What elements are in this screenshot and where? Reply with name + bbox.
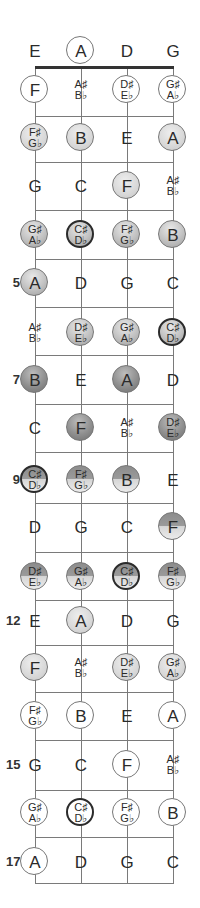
note-name: D (121, 42, 133, 61)
note-fret-1-string-d: D♯E♭ (110, 73, 144, 107)
note-name: G (120, 853, 133, 872)
note-fret-12-string-d: D (110, 604, 144, 638)
note-name: F (122, 756, 132, 775)
note-label: F♯G♭ (120, 224, 134, 246)
flat-name: B♭ (167, 765, 180, 776)
note-label: F (76, 420, 86, 437)
note-name: A (121, 371, 132, 390)
fret-line-16 (35, 837, 174, 838)
note-label: F♯G♭ (28, 127, 42, 149)
flat-name: A♭ (28, 813, 42, 824)
fret-line-9 (35, 503, 174, 504)
fretboard-diagram: 579121517EADGFA♯B♭D♯E♭G♯A♭F♯G♭BEAGCFA♯B♭… (0, 0, 200, 908)
note-name: E (29, 612, 40, 631)
flat-name: D♭ (120, 577, 133, 588)
flat-name: G♭ (166, 577, 180, 588)
note-label: E (167, 472, 178, 489)
note-fret-13-string-e: F (18, 651, 52, 685)
note-fret-11-string-a: G♯A♭ (64, 560, 98, 594)
note-label: G♯A♭ (166, 79, 180, 101)
note-fret-14-string-e: F♯G♭ (18, 699, 52, 733)
note-fret-15-string-a: C (64, 748, 98, 782)
note-label: B (167, 227, 178, 244)
note-fret-6-string-d: G♯A♭ (110, 316, 144, 350)
note-name: F (30, 659, 40, 678)
note-name: F (168, 518, 178, 537)
note-fret-3-string-e: G (18, 169, 52, 203)
note-fret-12-string-e: E (18, 604, 52, 638)
note-name: F (122, 177, 132, 196)
note-label: A (167, 130, 178, 147)
note-label: A♯B♭ (29, 322, 42, 344)
note-label: D (75, 275, 87, 292)
note-fret-12-string-g: G (156, 604, 190, 638)
note-label: C (75, 178, 87, 195)
note-label: C (121, 519, 133, 536)
flat-name: A♭ (166, 668, 180, 679)
note-fret-2-string-d: E (110, 121, 144, 155)
note-label: D♯E♭ (74, 322, 87, 344)
note-fret-17-string-a: D (64, 845, 98, 879)
note-fret-0-string-e: E (18, 34, 52, 68)
flat-name: A♭ (74, 577, 88, 588)
note-label: G (120, 275, 133, 292)
note-label: A♯B♭ (121, 417, 134, 439)
fret-line-8 (35, 452, 174, 453)
note-fret-1-string-a: A♯B♭ (64, 73, 98, 107)
note-fret-16-string-a: C♯D♭ (64, 796, 98, 830)
note-fret-15-string-g: A♯B♭ (156, 748, 190, 782)
flat-name: A♭ (166, 90, 180, 101)
note-fret-3-string-a: C (64, 169, 98, 203)
note-fret-0-string-g: G (156, 34, 190, 68)
note-name: B (167, 226, 178, 245)
note-name: G (166, 612, 179, 631)
note-name: E (121, 129, 132, 148)
note-fret-10-string-a: G (64, 510, 98, 544)
flat-name: G♭ (120, 235, 134, 246)
note-label: C♯D♭ (74, 224, 87, 246)
note-name: C (75, 756, 87, 775)
fret-line-7 (35, 404, 174, 405)
note-fret-5-string-e: A (18, 266, 52, 300)
fret-line-11 (35, 600, 174, 601)
note-label: D (121, 43, 133, 60)
note-label: D♯E♭ (120, 657, 133, 679)
flat-name: E♭ (28, 577, 41, 588)
note-name: G (28, 756, 41, 775)
note-label: G (28, 178, 41, 195)
note-fret-1-string-e: F (18, 73, 52, 107)
note-fret-1-string-g: G♯A♭ (156, 73, 190, 107)
nut-line (35, 66, 174, 69)
note-name: E (167, 471, 178, 490)
flat-name: D♭ (74, 813, 87, 824)
note-label: F (122, 178, 132, 195)
note-name: G (120, 274, 133, 293)
note-fret-3-string-g: A♯B♭ (156, 169, 190, 203)
note-label: F♯G♭ (166, 566, 180, 588)
note-fret-10-string-d: C (110, 510, 144, 544)
flat-name: A♭ (28, 235, 42, 246)
note-name: D (75, 274, 87, 293)
note-fret-7-string-a: E (64, 363, 98, 397)
flat-name: E♭ (166, 428, 179, 439)
note-name: B (29, 371, 40, 390)
note-label: G (74, 519, 87, 536)
note-fret-8-string-d: A♯B♭ (110, 411, 144, 445)
note-name: C (29, 419, 41, 438)
note-name: C (75, 177, 87, 196)
note-label: E (121, 708, 132, 725)
note-fret-14-string-d: E (110, 699, 144, 733)
note-label: C (75, 757, 87, 774)
flat-name: D♭ (166, 333, 179, 344)
note-name: A (75, 612, 86, 631)
note-label: A (29, 854, 40, 871)
note-name: G (166, 42, 179, 61)
fret-line-14 (35, 740, 174, 741)
note-label: F (168, 519, 178, 536)
note-label: B (75, 708, 86, 725)
note-name: D (121, 612, 133, 631)
note-name: F (30, 81, 40, 100)
note-label: A (29, 275, 40, 292)
note-name: C (167, 853, 179, 872)
fret-line-5 (35, 307, 174, 308)
